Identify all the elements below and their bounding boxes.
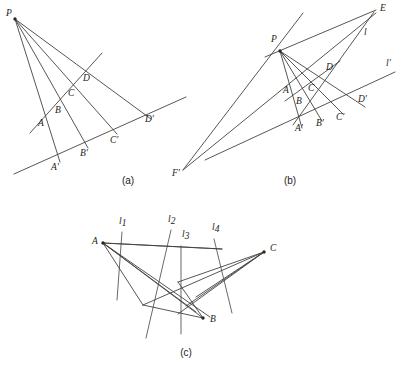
- point-label-B: B: [210, 314, 216, 324]
- line-A'B'C'D': [14, 97, 186, 174]
- seg-bottom-left: [103, 243, 143, 305]
- ray-P-C-C': [15, 19, 117, 134]
- point-label-D-prime: D': [357, 94, 368, 104]
- point-label-C: C: [68, 88, 75, 98]
- ray-P-B-B': [15, 19, 88, 148]
- panel-a-vertex-dots: [13, 17, 16, 20]
- point-label-A: A: [282, 85, 289, 95]
- point-label-A: A: [37, 118, 44, 128]
- ray-P-A-A': [15, 19, 60, 162]
- vertex-dot-B: [201, 316, 204, 319]
- C-to-q1: [143, 252, 264, 305]
- panel-c-lines: [103, 230, 264, 338]
- panel-b-point-labels: PEF'ABCDA'B'C'D': [171, 3, 386, 178]
- point-label-A: A: [91, 236, 98, 246]
- point-label-B-prime: B': [80, 148, 89, 158]
- panel-b: PEF'ABCDA'B'C'D' ll' (b): [171, 3, 395, 186]
- point-label-A-prime: A': [294, 123, 304, 133]
- figure-canvas: PABCDA'B'C'D' (a) PEF'ABCDA'B'C'D' ll' (…: [0, 0, 412, 367]
- panel-b-line-labels: ll': [364, 27, 392, 68]
- panel-c-caption: (c): [180, 347, 192, 358]
- line-E-D-A': [293, 12, 374, 125]
- vertex-dot-P: [13, 17, 16, 20]
- line-label-l3: l3: [182, 229, 190, 241]
- panel-b-caption: (b): [284, 175, 296, 186]
- C-to-q4: [196, 252, 264, 297]
- point-label-P: P: [270, 34, 277, 44]
- point-label-B: B: [296, 96, 302, 106]
- ray-P-D-D': [15, 19, 151, 119]
- point-label-E: E: [379, 3, 386, 13]
- line-label-l: l: [364, 27, 367, 37]
- point-label-C: C: [270, 243, 277, 253]
- panel-b-vertex-dots: [278, 49, 281, 52]
- point-label-F-prime: F': [171, 168, 181, 178]
- point-label-C-prime: C': [336, 112, 345, 122]
- line-label-l2: l2: [168, 214, 176, 226]
- point-label-D-prime: D': [144, 114, 155, 124]
- geometry-figure-root: PABCDA'B'C'D' (a) PEF'ABCDA'B'C'D' ll' (…: [0, 0, 412, 367]
- point-label-D: D: [82, 73, 90, 83]
- ray-P-D-D': [280, 51, 365, 107]
- panel-a-lines: [14, 19, 186, 174]
- point-label-C: C: [308, 83, 315, 93]
- line-label-l-prime: l': [386, 58, 392, 68]
- panel-a: PABCDA'B'C'D' (a): [5, 8, 186, 186]
- A-to-p4: [103, 243, 210, 317]
- vertex-dot-P: [278, 49, 281, 52]
- point-label-D: D: [325, 62, 333, 72]
- panel-a-caption: (a): [122, 175, 134, 186]
- point-label-B: B: [55, 105, 61, 115]
- panel-c: ABC l1l2l3l4 (c): [91, 214, 277, 358]
- point-label-A-prime: A': [50, 162, 60, 172]
- point-label-P: P: [5, 8, 12, 18]
- line-E-F': [183, 13, 376, 170]
- vertex-dot-C: [262, 250, 265, 253]
- seg-cross-1: [178, 282, 203, 318]
- line-label-l1: l1: [119, 216, 126, 228]
- line-label-l4: l4: [212, 222, 220, 234]
- line-P-E: [265, 10, 376, 57]
- point-label-B-prime: B': [316, 118, 325, 128]
- vertex-dot-A: [101, 241, 104, 244]
- point-label-C-prime: C': [110, 135, 119, 145]
